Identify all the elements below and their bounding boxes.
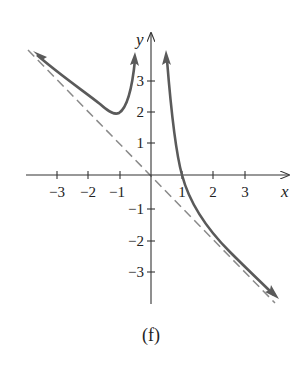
x-tick-label: 2 — [209, 184, 217, 200]
graph: −3 −2 −1 1 2 3 3 2 1 −1 −2 −3 x y (f) — [0, 0, 304, 365]
curve-left-branch — [37, 55, 135, 114]
x-tick-label: −3 — [49, 184, 65, 200]
y-tick-label: −2 — [128, 233, 144, 249]
x-tick-label: −2 — [80, 184, 96, 200]
figure-caption: (f) — [142, 325, 160, 346]
y-tick-label: −1 — [128, 201, 144, 217]
y-axis-label: y — [134, 30, 144, 49]
y-tick-label: 3 — [137, 73, 145, 89]
y-tick-label: 1 — [137, 135, 145, 151]
y-tick-label: −3 — [128, 264, 144, 280]
curve-right-branch — [167, 60, 274, 295]
x-tick-label: −1 — [109, 184, 125, 200]
x-tick-label: 3 — [241, 184, 249, 200]
y-tick-label: 2 — [137, 104, 145, 120]
x-axis-label: x — [280, 182, 289, 201]
